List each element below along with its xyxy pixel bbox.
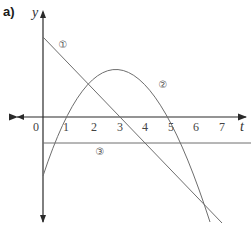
parabola-2 (43, 69, 210, 222)
y-axis-label: y (30, 5, 39, 20)
x-tick-7: 7 (219, 120, 225, 134)
graph-canvas: a) y t 0 1 2 3 4 5 6 7 ① ② ③ (0, 0, 251, 226)
line-1-label: ① (59, 39, 68, 50)
x-tick-4: 4 (142, 120, 148, 134)
x-axis-label: t (240, 119, 245, 134)
x-tick-3: 3 (117, 120, 123, 134)
x-tick-labels: 1 2 3 4 5 6 7 (63, 120, 225, 134)
part-label: a) (3, 4, 15, 19)
x-tick-6: 6 (193, 120, 199, 134)
line-3-label: ③ (96, 146, 105, 157)
origin-label: 0 (33, 120, 39, 134)
curve-2-label: ② (159, 79, 168, 90)
y-axis-up-arrow-icon (40, 10, 46, 18)
y-axis-down-arrow-icon (40, 215, 46, 223)
x-axis-left-arrow-icon (17, 114, 24, 120)
x-tick-2: 2 (91, 120, 97, 134)
